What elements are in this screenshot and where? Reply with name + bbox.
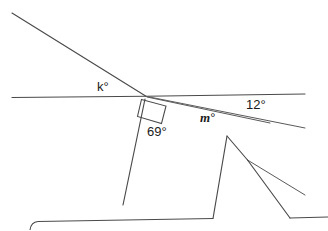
geometry-canvas xyxy=(0,0,328,230)
baseline-bottom xyxy=(30,219,213,231)
angle-label-12: 12° xyxy=(246,98,266,111)
ray-twelve-degrees xyxy=(147,97,305,129)
vertex-ray-upper xyxy=(248,160,306,195)
line-sixtynine-degrees xyxy=(123,99,145,205)
vertex-ray-lower xyxy=(248,160,291,218)
peak-right-edge xyxy=(227,136,248,160)
angle-label-69: 69° xyxy=(147,125,167,138)
angle-label-m: m° xyxy=(200,111,215,124)
peak-left-edge xyxy=(213,136,227,219)
right-angle-marker xyxy=(138,100,167,124)
upper-left-diagonal-line xyxy=(12,13,146,96)
angle-label-m-variable: m xyxy=(200,110,210,125)
baseline-right xyxy=(290,217,328,218)
angle-label-m-degree-symbol: ° xyxy=(210,110,215,125)
angle-label-k: k° xyxy=(97,80,109,93)
geometry-diagram: k° 12° m° 69° xyxy=(0,0,328,230)
